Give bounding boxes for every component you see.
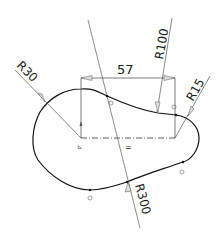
leader-r30 bbox=[15, 70, 81, 138]
arrow-r15-icon bbox=[188, 106, 194, 116]
arrow-left-icon bbox=[81, 76, 92, 81]
arrow-r30-icon bbox=[38, 93, 45, 102]
dimension-r15[interactable]: R15 bbox=[183, 76, 207, 103]
sketch-profile[interactable] bbox=[33, 89, 199, 190]
tangent-point[interactable] bbox=[126, 181, 128, 183]
arrow-up-icon bbox=[80, 121, 83, 126]
tangent-point[interactable] bbox=[89, 189, 91, 191]
sketch-canvas: ⊾ = 57 R30 R100 R15 R300 bbox=[0, 0, 223, 245]
arrow-r100-icon bbox=[155, 102, 160, 112]
origin-icon: ⊾ bbox=[77, 143, 83, 151]
tangent-point[interactable] bbox=[182, 161, 184, 163]
dimension-r300[interactable]: R300 bbox=[132, 182, 154, 216]
dimension-r100[interactable]: R100 bbox=[152, 27, 171, 60]
tangent-point[interactable] bbox=[175, 114, 177, 116]
horizontal-relation-icon: = bbox=[125, 143, 132, 152]
dimension-r30[interactable]: R30 bbox=[14, 58, 41, 85]
leader-r300 bbox=[88, 20, 140, 228]
dimension-57[interactable]: 57 bbox=[117, 62, 134, 77]
tangent-point[interactable] bbox=[106, 95, 108, 97]
arrow-right-icon bbox=[164, 76, 175, 81]
